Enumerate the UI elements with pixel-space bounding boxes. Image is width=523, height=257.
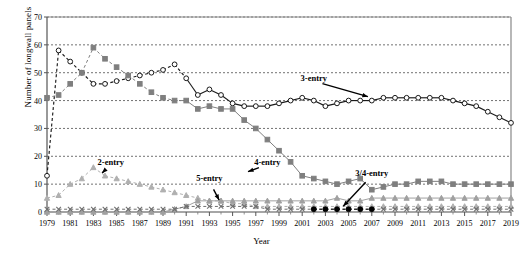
annotation-4-entry: 4-entry (254, 157, 281, 167)
x-tick-label: 2013 (433, 219, 449, 228)
annotation-2-entry: 2-entry (98, 157, 125, 167)
x-tick-label: 1981 (62, 219, 78, 228)
x-tick-label: 2015 (457, 219, 473, 228)
series-3/4-entry (311, 207, 374, 212)
x-tick-label: 2007 (364, 219, 380, 228)
y-tick-label: 60 (34, 41, 42, 50)
longwall-panels-chart: Number of longwall panels Year 010203040… (0, 0, 523, 257)
x-tick-label: 1991 (178, 219, 194, 228)
y-tick-label: 20 (34, 152, 42, 161)
annotation-5-entry: 5-entry (196, 173, 223, 183)
y-tick-label: 50 (34, 69, 42, 78)
x-tick-label: 2009 (387, 219, 403, 228)
y-tick-label: 30 (34, 124, 42, 133)
annotation-3-4-entry: 3/4-entry (355, 168, 389, 178)
x-tick-label: 2001 (294, 219, 310, 228)
x-tick-label: 1987 (132, 219, 148, 228)
plot-area: 0102030405060701979198119831985198719891… (0, 0, 523, 257)
annotation-3-entry: 3-entry (301, 73, 328, 83)
x-tick-label: 2005 (341, 219, 357, 228)
y-tick-label: 70 (34, 13, 42, 22)
x-tick-label: 2017 (480, 219, 496, 228)
x-tick-label: 1995 (225, 219, 241, 228)
y-tick-label: 0 (38, 208, 42, 217)
x-tick-label: 2011 (410, 219, 426, 228)
y-tick-label: 40 (34, 97, 42, 106)
x-tick-label: 1993 (201, 219, 217, 228)
x-tick-label: 1989 (155, 219, 171, 228)
x-tick-label: 1999 (271, 219, 287, 228)
x-tick-label: 1985 (109, 219, 125, 228)
series-4-entry (45, 45, 514, 192)
x-tick-label: 1997 (248, 219, 264, 228)
y-tick-label: 10 (34, 180, 42, 189)
x-tick-label: 1979 (39, 219, 55, 228)
x-tick-label: 2019 (503, 219, 519, 228)
x-tick-label: 2003 (317, 219, 333, 228)
x-tick-label: 1983 (85, 219, 101, 228)
